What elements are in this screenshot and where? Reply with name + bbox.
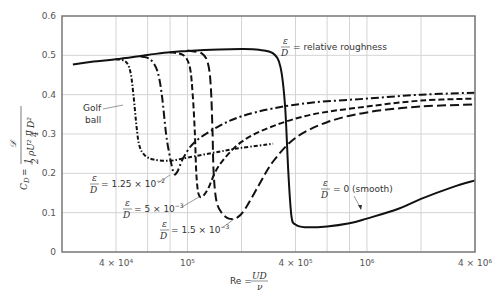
svg-text:ε: ε	[283, 36, 288, 46]
svg-text:= 1.25 × 10−2: = 1.25 × 10−2	[101, 177, 165, 189]
svg-text:D²: D²	[26, 117, 36, 129]
x-axis-label: Re = UD ν	[230, 271, 268, 292]
svg-text:ν: ν	[257, 282, 263, 292]
svg-text:D: D	[159, 231, 167, 241]
x-tick-label: 10⁵	[180, 258, 195, 268]
svg-text:D: D	[320, 190, 328, 200]
annotation-golf-ball: Golf ball	[83, 103, 123, 125]
svg-text:D: D	[122, 210, 130, 220]
y-tick-label: 0.2	[42, 168, 56, 178]
data-series	[73, 49, 475, 227]
svg-text:𝒟: 𝒟	[8, 139, 18, 148]
svg-text:D: D	[280, 48, 288, 58]
drag-coefficient-chart: 00.10.20.30.40.50.6 4 × 10⁴10⁵4 × 10⁵10⁶…	[0, 0, 503, 296]
y-tick-label: 0	[50, 247, 56, 257]
y-axis-ticks: 00.10.20.30.40.50.6	[42, 11, 57, 257]
svg-text:=: =	[19, 168, 29, 176]
svg-text:4: 4	[30, 131, 40, 138]
svg-text:D: D	[89, 185, 97, 195]
x-tick-label: 4 × 10⁴	[99, 258, 133, 268]
y-tick-label: 0.1	[42, 208, 56, 218]
series-line	[73, 49, 475, 227]
y-tick-label: 0.3	[42, 129, 56, 139]
y-tick-label: 0.4	[42, 90, 57, 100]
x-axis-ticks: 4 × 10⁴10⁵4 × 10⁵10⁶4 × 10⁶	[99, 258, 492, 268]
svg-text:ε: ε	[323, 178, 328, 188]
svg-text:ρU²: ρU²	[26, 139, 36, 157]
svg-text:Re =: Re =	[230, 276, 252, 286]
y-tick-label: 0.6	[42, 11, 57, 21]
svg-text:CD: CD	[19, 177, 31, 190]
annotation-roughness-1.25e-2: ε D = 1.25 × 10−2	[89, 173, 170, 195]
svg-text:Golf: Golf	[83, 103, 102, 113]
series-line	[116, 59, 273, 161]
x-tick-label: 10⁶	[359, 258, 374, 268]
svg-text:= 0 (smooth): = 0 (smooth)	[333, 184, 393, 194]
annotation-relative-roughness: ε D = relative roughness	[280, 36, 387, 58]
svg-text:= 1.5 × 10−3: = 1.5 × 10−3	[171, 223, 229, 235]
annotation-smooth: ε D = 0 (smooth)	[320, 178, 393, 210]
y-axis-label: CD = 𝒟 1 2 ρU² π 4 D²	[8, 106, 40, 190]
y-tick-label: 0.5	[42, 50, 56, 60]
x-tick-label: 4 × 10⁶	[458, 258, 492, 268]
svg-text:UD: UD	[252, 271, 267, 281]
svg-text:= relative roughness: = relative roughness	[293, 42, 387, 52]
x-tick-label: 4 × 10⁵	[278, 258, 312, 268]
svg-text:ε: ε	[125, 198, 130, 208]
svg-text:2: 2	[30, 158, 40, 165]
svg-text:ε: ε	[92, 173, 97, 183]
svg-text:ε: ε	[162, 219, 167, 229]
svg-text:ball: ball	[85, 115, 101, 125]
